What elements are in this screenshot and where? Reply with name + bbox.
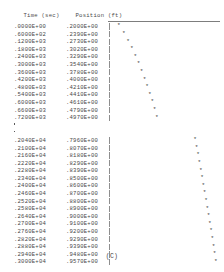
plot-marker: * <box>207 213 211 219</box>
cell-time: .2280E+04 <box>14 167 62 174</box>
cell-time: .2400E+04 <box>14 182 62 189</box>
plot-axis-tick <box>109 115 110 121</box>
cell-time: .2160E+04 <box>14 152 62 159</box>
plot-marker: * <box>137 61 141 67</box>
cell-position: .8390E+00 <box>66 167 114 174</box>
table-row: .2400E+04.8600E+00* <box>0 182 224 190</box>
plot-marker: * <box>145 84 149 90</box>
plot-top-rule <box>108 21 220 22</box>
table-row: .3000E+03.3540E+00* <box>0 61 224 69</box>
cell-position: .8500E+00 <box>66 175 114 182</box>
table-row: .2520E+04.8800E+00* <box>0 198 224 206</box>
plot-axis-tick <box>109 61 110 67</box>
plot-axis-tick <box>109 23 110 29</box>
cell-time: .0000E+00 <box>14 23 62 30</box>
table-row: .1800E+03.3020E+00* <box>0 46 224 54</box>
plot-marker: * <box>126 39 130 45</box>
plot-marker: * <box>196 152 200 158</box>
cell-time: .4200E+03 <box>14 76 62 83</box>
plot-axis-tick <box>109 236 110 242</box>
ellipsis-dot <box>14 123 15 124</box>
cell-position: .8070E+00 <box>66 145 114 152</box>
plot-axis-tick <box>109 69 110 75</box>
table-row: .2820E+04.9290E+00* <box>0 236 224 244</box>
cell-time: .6000E+03 <box>14 99 62 106</box>
plot-marker: * <box>130 46 134 52</box>
plot-axis-tick <box>109 244 110 250</box>
plot-marker: * <box>117 23 121 29</box>
cell-time: .6000E+02 <box>14 31 62 38</box>
cell-time: .3000E+03 <box>14 61 62 68</box>
table-row: .2760E+04.9200E+00* <box>0 228 224 236</box>
plot-marker: * <box>148 92 152 98</box>
table-row: .4200E+03.4000E+00* <box>0 76 224 84</box>
cell-position: .9000E+00 <box>66 213 114 220</box>
table-row: .2040E+04.7960E+00* <box>0 137 224 145</box>
plot-marker: * <box>209 228 213 234</box>
table-row: .2280E+04.8390E+00* <box>0 167 224 175</box>
plot-axis-tick <box>109 168 110 174</box>
cell-time: .2580E+04 <box>14 205 62 212</box>
plot-marker: * <box>195 145 199 151</box>
table-row: .3600E+03.3780E+00* <box>0 69 224 77</box>
plot-axis-tick <box>109 92 110 98</box>
cell-position: .9100E+00 <box>66 220 114 227</box>
plot-marker: * <box>134 54 138 60</box>
cell-position: .4790E+00 <box>66 107 114 114</box>
plot-marker: * <box>212 244 216 250</box>
plot-marker: * <box>199 168 203 174</box>
plot-axis-tick <box>109 46 110 52</box>
cell-position: .9290E+00 <box>66 236 114 243</box>
plot-axis-tick <box>109 31 110 37</box>
table-row: .4800E+03.4210E+00* <box>0 84 224 92</box>
plot-axis-tick <box>109 152 110 158</box>
plot-marker: * <box>210 236 214 242</box>
plot-marker: * <box>208 221 212 227</box>
cell-time: .2220E+04 <box>14 160 62 167</box>
table-row: .1200E+03.2730E+00* <box>0 38 224 46</box>
plot-axis-tick <box>109 183 110 189</box>
plot-marker: * <box>150 99 154 105</box>
table-row: .2400E+03.3290E+00* <box>0 53 224 61</box>
plot-axis-tick <box>109 213 110 219</box>
plot-marker: * <box>155 115 159 121</box>
plot-marker: * <box>193 137 197 143</box>
table-row: .2880E+04.9390E+00* <box>0 243 224 251</box>
table-row: .6000E+02.2390E+00* <box>0 31 224 39</box>
cell-time: .3600E+03 <box>14 69 62 76</box>
plot-axis-tick <box>109 228 110 234</box>
cell-position: .2390E+00 <box>66 31 114 38</box>
cell-position: .3290E+00 <box>66 53 114 60</box>
cell-position: .3780E+00 <box>66 69 114 76</box>
cell-position: .8600E+00 <box>66 182 114 189</box>
plot-marker: * <box>140 69 144 75</box>
column-header-position: Position (ft) <box>75 12 122 19</box>
table-row: .2580E+04.8900E+00* <box>0 205 224 213</box>
cell-position: .3020E+00 <box>66 46 114 53</box>
cell-time: .2340E+04 <box>14 175 62 182</box>
plot-axis-tick <box>109 99 110 105</box>
table-row: .5400E+03.4410E+00* <box>0 91 224 99</box>
table-row: .2100E+04.8070E+00* <box>0 145 224 153</box>
ellipsis-row <box>0 122 224 130</box>
cell-position: .2000E+00 <box>66 23 114 30</box>
plot-marker: * <box>200 175 204 181</box>
plot-axis-tick <box>109 175 110 181</box>
cell-time: .7200E+03 <box>14 114 62 121</box>
cell-position: .2730E+00 <box>66 38 114 45</box>
cell-time: .4800E+03 <box>14 84 62 91</box>
cell-time: .2400E+03 <box>14 53 62 60</box>
table-row: .2160E+04.8180E+00* <box>0 152 224 160</box>
plot-marker: * <box>153 107 157 113</box>
cell-time: .2460E+04 <box>14 190 62 197</box>
cell-time: .5400E+03 <box>14 91 62 98</box>
cell-time: .2640E+04 <box>14 213 62 220</box>
plot-axis-tick <box>109 39 110 45</box>
cell-position: .8700E+00 <box>66 190 114 197</box>
plot-marker: * <box>203 190 207 196</box>
ellipsis-dot <box>14 131 15 132</box>
cell-time: .2880E+04 <box>14 243 62 250</box>
plot-axis-tick <box>109 160 110 166</box>
table-row: .7200E+03.4970E+00* <box>0 114 224 122</box>
cell-time: .6600E+03 <box>14 107 62 114</box>
